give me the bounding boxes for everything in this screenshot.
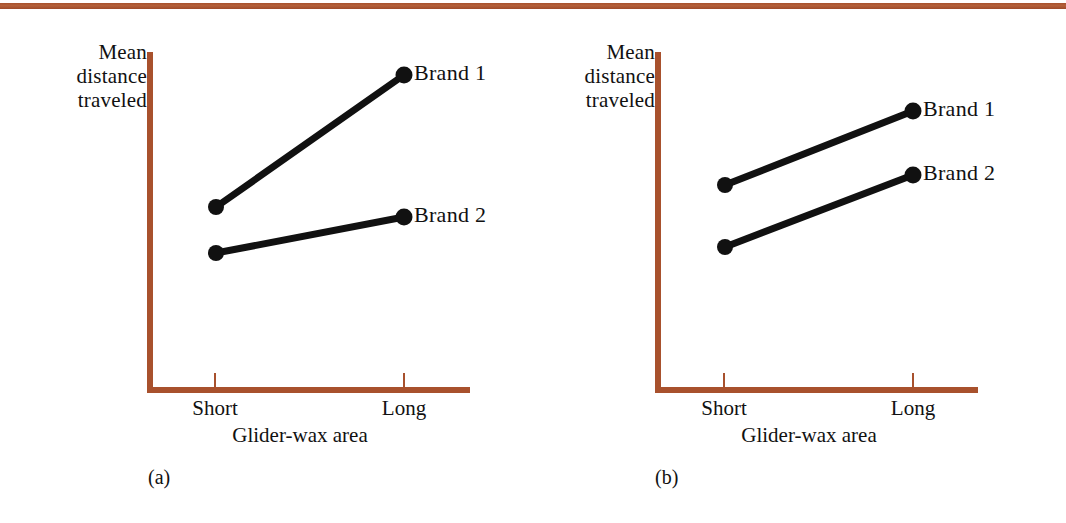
data-point-brand2-short-b <box>717 239 733 255</box>
y-axis-label-line-3: traveled <box>77 88 147 112</box>
y-axis-line-a <box>147 52 153 393</box>
data-point-brand2-short-a <box>208 245 224 261</box>
y-axis-label-line-2: distance <box>77 64 147 88</box>
series-label-brand-1-b: Brand 1 <box>923 96 995 122</box>
x-axis-line-b <box>655 387 978 393</box>
data-point-brand1-short-b <box>717 177 733 193</box>
x-axis-line-a <box>147 387 470 393</box>
panel-caption-a: (a) <box>148 466 170 489</box>
series-label-brand-2-b: Brand 2 <box>923 160 995 186</box>
y-axis-label-b: Mean distance traveled <box>585 40 655 112</box>
chart-panel-a: Mean distance traveled Brand 1 Brand 2 S… <box>0 0 533 523</box>
y-axis-label-line-2: distance <box>585 64 655 88</box>
series-label-brand-2-a: Brand 2 <box>414 202 486 228</box>
x-axis-label-a: Glider-wax area <box>232 423 367 448</box>
chart-panel-b: Mean distance traveled Brand 1 Brand 2 S… <box>533 0 1066 523</box>
y-axis-label-line-1: Mean <box>585 40 655 64</box>
series-brand-1-a <box>208 67 413 216</box>
y-axis-line-b <box>655 52 661 393</box>
x-tick-short-a <box>214 373 216 387</box>
series-label-brand-1-a: Brand 1 <box>414 60 486 86</box>
x-tick-label-long-b: Long <box>891 396 935 421</box>
panel-caption-b: (b) <box>655 466 678 489</box>
y-axis-label-line-3: traveled <box>585 88 655 112</box>
data-point-brand2-long-a <box>396 209 413 226</box>
y-axis-label-a: Mean distance traveled <box>77 40 147 112</box>
series-brand-1-b <box>717 103 922 194</box>
y-axis-label-line-1: Mean <box>77 40 147 64</box>
data-point-brand1-short-a <box>208 199 224 215</box>
data-point-brand2-long-b <box>905 167 922 184</box>
x-tick-label-short-a: Short <box>192 396 238 421</box>
x-tick-long-a <box>403 373 405 387</box>
x-tick-label-long-a: Long <box>382 396 426 421</box>
x-tick-label-short-b: Short <box>701 396 747 421</box>
data-point-brand1-long-b <box>905 103 922 120</box>
series-brand-2-a <box>208 209 413 262</box>
data-point-brand1-long-a <box>396 67 413 84</box>
x-tick-long-b <box>912 373 914 387</box>
x-tick-short-b <box>723 373 725 387</box>
x-axis-label-b: Glider-wax area <box>741 423 876 448</box>
